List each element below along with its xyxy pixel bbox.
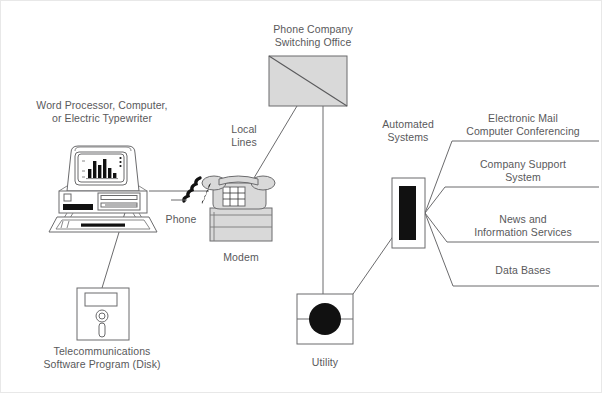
diagram-canvas: .ln { stroke:#6b6b6d; stroke-width:1; fi… xyxy=(0,0,602,393)
automated-systems-icon xyxy=(392,178,425,248)
label-news-information: News and Information Services xyxy=(474,213,572,239)
label-company-support: Company Support System xyxy=(480,158,566,184)
link-automated-company-support xyxy=(425,187,599,213)
switching-office-icon xyxy=(269,56,347,106)
label-utility: Utility xyxy=(312,356,338,369)
diagram-svg: .ln { stroke:#6b6b6d; stroke-width:1; fi… xyxy=(1,1,602,393)
label-modem: Modem xyxy=(223,251,259,264)
label-switching-office: Phone Company Switching Office xyxy=(273,23,353,49)
label-data-bases: Data Bases xyxy=(495,264,550,277)
label-phone: Phone xyxy=(166,213,197,226)
computer-icon xyxy=(49,146,157,232)
label-electronic-mail: Electronic Mail Computer Conferencing xyxy=(466,112,580,138)
label-automated-systems: Automated Systems xyxy=(382,118,434,144)
telephone-icon xyxy=(171,176,275,209)
utility-icon xyxy=(297,294,353,344)
link-utility-automated-systems xyxy=(353,235,394,294)
label-word-processor: Word Processor, Computer, or Electric Ty… xyxy=(36,99,167,125)
label-telecom-software: Telecommunications Software Program (Dis… xyxy=(43,345,160,371)
modem-icon xyxy=(210,208,272,241)
label-local-lines: Local Lines xyxy=(231,123,257,149)
floppy-disk-icon xyxy=(77,288,129,340)
